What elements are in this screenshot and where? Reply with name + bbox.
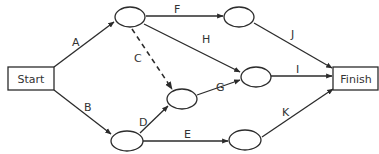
label-e: E: [184, 128, 191, 141]
label-c: C: [134, 52, 142, 65]
edge-b: [54, 90, 111, 134]
label-d: D: [139, 116, 147, 129]
label-i: I: [296, 63, 299, 76]
event-node-6: [229, 130, 261, 150]
event-node-4: [167, 89, 197, 109]
label-g: G: [216, 81, 225, 94]
event-node-2: [224, 7, 254, 27]
label-h: H: [202, 33, 210, 46]
label-b: B: [84, 101, 92, 114]
label-f: F: [174, 3, 180, 16]
label-j: J: [290, 28, 294, 41]
edge-a: [54, 22, 114, 67]
event-node-3: [241, 67, 271, 87]
start-terminal: Start: [8, 67, 54, 90]
label-a: A: [72, 36, 80, 49]
event-node-5: [111, 131, 143, 151]
edge-h: [144, 24, 240, 72]
finish-terminal: Finish: [333, 67, 378, 90]
start-label: Start: [18, 73, 46, 86]
event-nodes: [111, 7, 271, 151]
edge-k: [262, 89, 333, 137]
label-k: K: [282, 106, 290, 119]
event-node-1: [115, 7, 145, 27]
finish-label: Finish: [340, 73, 371, 86]
network-diagram: Start Finish A B C D E F G H I J K: [0, 0, 379, 154]
